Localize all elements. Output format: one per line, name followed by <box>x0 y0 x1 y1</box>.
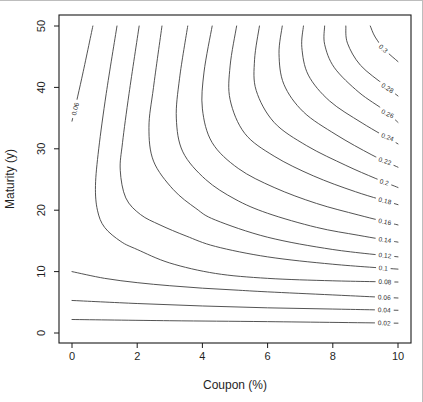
contour-label-0.02: 0.02 <box>378 319 392 326</box>
y-tick-label: 0 <box>35 330 47 336</box>
contour-label-0.06: 0.06 <box>70 101 80 116</box>
contour-lines-group <box>72 26 398 323</box>
contour-label-0.08: 0.08 <box>378 278 392 286</box>
contour-label-0.06: 0.06 <box>378 293 392 301</box>
y-tick-label: 40 <box>35 81 47 93</box>
y-tick-label: 30 <box>35 143 47 155</box>
y-tick-label: 20 <box>35 204 47 216</box>
contour-line-0.14 <box>176 26 398 242</box>
x-tick-label: 2 <box>134 350 140 362</box>
x-tick-label: 6 <box>265 350 271 362</box>
y-axis-label: Maturity (y) <box>3 149 17 209</box>
x-tick-label: 10 <box>392 350 404 362</box>
plot-frame <box>59 15 411 343</box>
contour-line-0.08 <box>95 26 398 282</box>
y-tick-label: 50 <box>35 20 47 32</box>
x-axis-label: Coupon (%) <box>203 378 267 392</box>
axes-group: 024681001020304050 <box>35 20 404 362</box>
contour-labels-group: 0.020.040.060.060.080.10.120.140.160.180… <box>69 41 397 327</box>
contour-figure: 0.020.040.060.060.080.10.120.140.160.180… <box>0 0 423 402</box>
x-tick-label: 8 <box>330 350 336 362</box>
contour-line-0.04 <box>72 300 398 310</box>
y-tick-label: 10 <box>35 265 47 277</box>
x-tick-label: 0 <box>69 350 75 362</box>
contour-label-0.16: 0.16 <box>378 217 392 226</box>
contour-label-0.04: 0.04 <box>378 306 392 313</box>
contour-plot: 0.020.040.060.060.080.10.120.140.160.180… <box>0 0 423 402</box>
contour-line-0.12 <box>149 26 398 257</box>
contour-line-0.1 <box>120 26 398 269</box>
x-tick-label: 4 <box>199 350 205 362</box>
contour-label-0.1: 0.1 <box>378 264 388 272</box>
contour-line-0.26 <box>324 26 398 122</box>
contour-line-0.02 <box>72 319 398 323</box>
contour-label-0.18: 0.18 <box>378 196 393 206</box>
